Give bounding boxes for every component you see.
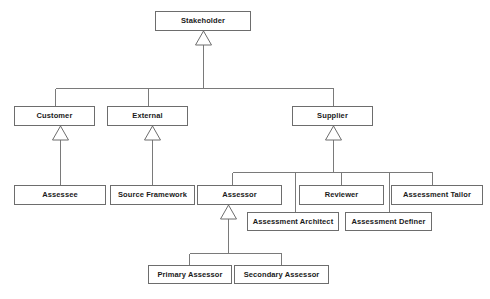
class-box-stakeholder[interactable]: Stakeholder bbox=[155, 11, 251, 31]
class-box-assessment-definer[interactable]: Assessment Definer bbox=[345, 212, 432, 231]
class-box-assessment-architect[interactable]: Assessment Architect bbox=[247, 212, 339, 231]
class-label-assessor: Assessor bbox=[222, 191, 257, 199]
class-label-source-framework: Source Framework bbox=[118, 191, 187, 199]
class-box-secondary-assessor[interactable]: Secondary Assessor bbox=[234, 265, 329, 284]
class-label-assessment-definer: Assessment Definer bbox=[352, 218, 426, 226]
class-label-secondary-assessor: Secondary Assessor bbox=[244, 271, 320, 279]
generalization-arrow-customer bbox=[53, 126, 69, 140]
class-box-supplier[interactable]: Supplier bbox=[292, 106, 373, 126]
class-box-source-framework[interactable]: Source Framework bbox=[110, 185, 195, 205]
class-box-assessee[interactable]: Assessee bbox=[14, 185, 106, 205]
class-label-stakeholder: Stakeholder bbox=[181, 17, 225, 25]
generalization-arrow-supplier bbox=[326, 126, 342, 140]
class-label-primary-assessor: Primary Assessor bbox=[157, 271, 222, 279]
class-box-assessment-tailor[interactable]: Assessment Tailor bbox=[391, 185, 483, 205]
class-label-reviewer: Reviewer bbox=[325, 191, 359, 199]
class-label-supplier: Supplier bbox=[317, 112, 348, 120]
generalization-arrow-stakeholder bbox=[196, 31, 212, 45]
class-label-customer: Customer bbox=[37, 112, 73, 120]
generalization-arrow-external bbox=[145, 126, 161, 140]
class-box-customer[interactable]: Customer bbox=[14, 106, 95, 126]
class-box-reviewer[interactable]: Reviewer bbox=[299, 185, 384, 205]
class-label-assessee: Assessee bbox=[42, 191, 77, 199]
connector-layer bbox=[0, 0, 490, 299]
uml-class-diagram: Stakeholder Customer External Supplier A… bbox=[0, 0, 490, 299]
class-box-external[interactable]: External bbox=[107, 106, 188, 126]
class-label-external: External bbox=[132, 112, 162, 120]
class-label-assessment-tailor: Assessment Tailor bbox=[403, 191, 471, 199]
class-label-assessment-architect: Assessment Architect bbox=[253, 218, 334, 226]
class-box-assessor[interactable]: Assessor bbox=[197, 185, 282, 205]
caption-strip bbox=[0, 0, 490, 9]
class-box-primary-assessor[interactable]: Primary Assessor bbox=[148, 265, 232, 284]
generalization-arrow-assessor bbox=[221, 205, 237, 219]
